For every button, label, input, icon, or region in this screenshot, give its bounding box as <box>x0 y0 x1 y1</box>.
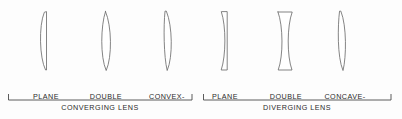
lens-label-line1: CONCAVE- <box>305 92 385 101</box>
lens-glyph-double-convex <box>102 12 111 71</box>
group-caption-diverging: DIVERGING LENS <box>203 103 391 112</box>
lens-diagram: PLANE CONVEX DOUBLE CONVEX CONVEX- CONCA… <box>0 0 402 119</box>
lens-glyph-convex-concave <box>164 12 171 71</box>
lens-glyph-double-concave <box>278 12 292 70</box>
lens-glyph-plane-concave <box>221 12 227 70</box>
lens-label-concave-convex: CONCAVE- CONVEX <box>305 74 385 119</box>
lens-glyph-plane-convex <box>40 12 46 70</box>
lens-glyph-concave-convex <box>338 12 345 71</box>
group-caption-converging: CONVERGING LENS <box>8 103 192 112</box>
